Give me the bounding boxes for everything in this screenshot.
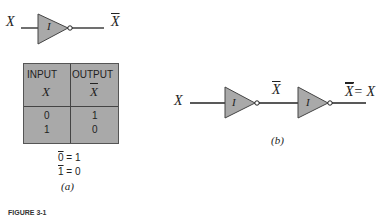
header-input-var: X xyxy=(42,84,50,100)
header-output-var: X xyxy=(90,84,98,100)
cell: 0 xyxy=(92,124,98,135)
mid-label-b: X xyxy=(272,82,281,98)
output-label-a: X xyxy=(111,14,120,30)
equation-2: 1 = 0 xyxy=(58,166,81,177)
cell: 0 xyxy=(44,110,50,121)
caption-a: (a) xyxy=(61,180,74,192)
header-input: INPUT xyxy=(27,69,57,80)
equation-1: 0 = 1 xyxy=(58,152,81,163)
figure-caption: FIGURE 3-1 xyxy=(8,209,47,215)
cell: 1 xyxy=(44,124,50,135)
cell: 1 xyxy=(92,110,98,121)
gate1-label-b: I xyxy=(232,96,236,108)
gate2-label-b: I xyxy=(306,96,310,108)
output-eq-b: X= X xyxy=(345,82,375,100)
header-output: OUTPUT xyxy=(72,69,113,80)
caption-b: (b) xyxy=(271,134,284,146)
gate-label-a: I xyxy=(47,20,51,32)
double-inverter-gates xyxy=(160,70,384,130)
truth-table: INPUT OUTPUT X X 0 1 1 0 xyxy=(23,63,119,144)
